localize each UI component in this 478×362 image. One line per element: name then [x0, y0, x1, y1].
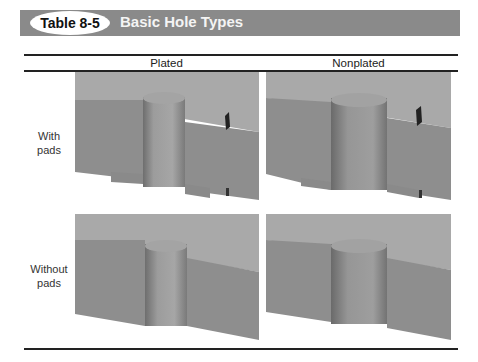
bottom-rule	[24, 348, 458, 350]
row-label-line: pads	[24, 276, 74, 290]
row-label-without-pads: Without pads	[24, 262, 74, 290]
row-label-line: With	[24, 129, 74, 143]
nonplated-with-pads-image	[266, 72, 451, 204]
row-label-line: pads	[24, 143, 74, 157]
top-rule	[24, 54, 458, 56]
row-label-line: Without	[24, 262, 74, 276]
nonplated-without-pads-image	[266, 214, 451, 342]
table-number-badge: Table 8-5	[30, 11, 110, 35]
table-title: Basic Hole Types	[120, 13, 243, 30]
column-header-nonplated: Nonplated	[266, 57, 451, 69]
plated-without-pads-image	[75, 214, 259, 342]
plated-with-pads-image	[75, 72, 259, 204]
row-label-with-pads: With pads	[24, 129, 74, 157]
column-header-plated: Plated	[75, 57, 258, 69]
